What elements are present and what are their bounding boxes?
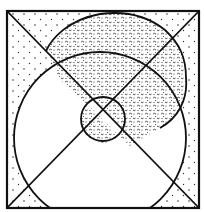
diagram-figure	[0, 0, 204, 212]
